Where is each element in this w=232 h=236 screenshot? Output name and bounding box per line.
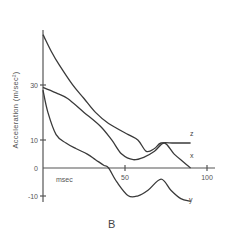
- acceleration-chart: 30 10 0 -10 50 100 msec Acceleration (m/…: [0, 0, 232, 236]
- y-tick-minus10: -10: [28, 193, 38, 200]
- x-axis-label: msec: [56, 176, 73, 183]
- y-tick-10: 10: [30, 137, 38, 144]
- panel-label: B: [108, 218, 115, 230]
- y-tick-30: 30: [30, 82, 38, 89]
- x-tick-50: 50: [121, 174, 129, 181]
- series-y-label: y: [189, 196, 193, 204]
- y-axis-label: Acceleration (m/sec²): [11, 71, 20, 148]
- series-z-label: z: [190, 130, 194, 137]
- series-z-line: [43, 35, 191, 152]
- x-tick-100: 100: [201, 174, 213, 181]
- series-x-label: x: [190, 152, 194, 159]
- y-tick-0: 0: [34, 165, 38, 172]
